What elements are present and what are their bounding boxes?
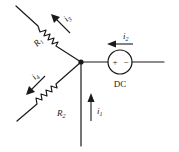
arrow-head-icon [107,41,116,48]
branch-r1 [16,6,81,62]
label-i4: i4 [29,70,41,82]
junction-node [78,59,83,64]
resistor-r1 [16,6,81,62]
resistor-r2 [17,62,81,121]
source-plus-sign: + [112,57,117,67]
current-arrow-i1 [88,93,95,121]
label-i2: i2 [123,31,129,42]
label-r1: R1 [31,35,45,49]
branch-r2 [17,62,81,121]
label-r2: R2 [56,108,66,119]
branch-dc: + − DC [81,50,164,89]
source-label: DC [114,79,127,89]
label-i3: i3 [61,12,73,24]
circuit-diagram: + − DC i3 R1 i4 R2 i2 i1 [0,0,179,152]
arrow-head-icon [88,93,95,102]
label-i1: i1 [97,106,103,117]
source-minus-sign: − [123,57,128,67]
current-arrow-i2 [107,41,133,48]
